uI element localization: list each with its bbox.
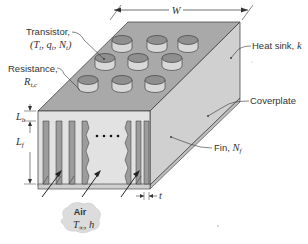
coverplate-front: [38, 184, 150, 189]
svg-text:Air: Air: [74, 207, 87, 217]
heat-sink-label: Heat sink, k: [230, 40, 302, 59]
width-dimension: W: [110, 3, 253, 20]
svg-text:Fin, Nf: Fin, Nf: [214, 142, 243, 155]
svg-text:Coverplate: Coverplate: [250, 95, 296, 106]
width-label: W: [172, 5, 182, 16]
stray-mark: [217, 225, 218, 226]
svg-text:Lf: Lf: [15, 136, 25, 149]
svg-text:Transistor,: Transistor,: [26, 26, 70, 37]
transistor: [145, 76, 165, 93]
transistor: [162, 54, 182, 71]
svg-text:Rt,c: Rt,c: [23, 76, 38, 89]
transistor: [78, 76, 98, 93]
transistor: [112, 76, 132, 93]
transistor: [128, 54, 148, 71]
transistor: [147, 36, 167, 53]
stray-mark: [251, 61, 252, 62]
base-fin-dimensions: Lb Lf: [15, 103, 36, 184]
transistor: [112, 36, 132, 53]
svg-text:Heat sink, k: Heat sink, k: [252, 40, 302, 51]
air-cloud: Air T∞, h: [61, 203, 100, 233]
transistor-label: Transistor, (Tt, qt, Nt): [26, 26, 105, 60]
svg-text:t: t: [159, 190, 163, 201]
svg-text:Resistance,: Resistance,: [8, 63, 58, 74]
transistor: [95, 54, 115, 71]
heat-sink-diagram: W: [0, 0, 308, 244]
svg-text:Lb: Lb: [15, 111, 26, 124]
fin-thickness-dimension: t: [136, 190, 163, 201]
svg-text:(Tt, qt, Nt): (Tt, qt, Nt): [30, 39, 72, 52]
transistor: [178, 36, 198, 53]
